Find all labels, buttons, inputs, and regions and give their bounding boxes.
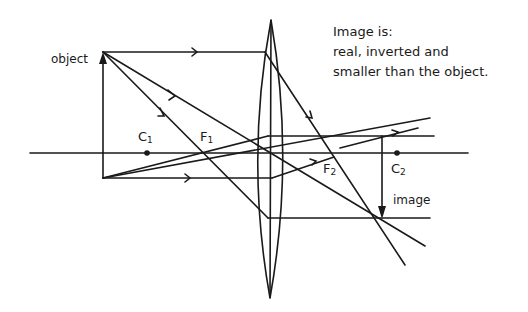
f1-subscript: 1 — [207, 135, 213, 145]
c1-label: C1 — [138, 130, 153, 147]
caption-line-1: real, inverted and — [333, 42, 488, 62]
f2-label: F2 — [323, 162, 336, 179]
c2-subscript: 2 — [400, 167, 406, 177]
f2-subscript: 2 — [330, 167, 336, 177]
caption-heading: Image is: — [333, 22, 488, 42]
ray-bottom-extension — [340, 128, 418, 148]
ray-parallel-out — [265, 52, 405, 265]
c1-letter: C — [138, 129, 147, 144]
c2-label: C2 — [391, 162, 406, 179]
image-description: Image is: real, inverted and smaller tha… — [333, 22, 488, 82]
ray-bottom-upper-in — [103, 136, 268, 178]
direction-chevron-icon — [168, 90, 175, 100]
direction-chevron-icon — [392, 130, 398, 136]
ray-focal-in — [103, 52, 268, 218]
object-label: object — [51, 52, 88, 66]
c1-point — [144, 150, 150, 156]
image-label: image — [393, 193, 430, 207]
c2-point — [394, 150, 400, 156]
f1-label: F1 — [200, 130, 213, 147]
image-arrowhead-icon — [378, 206, 386, 219]
c1-subscript: 1 — [147, 135, 153, 145]
c2-letter: C — [391, 161, 400, 176]
ray-bottom-through-f1 — [103, 118, 430, 178]
caption-line-2: smaller than the object. — [333, 62, 488, 82]
